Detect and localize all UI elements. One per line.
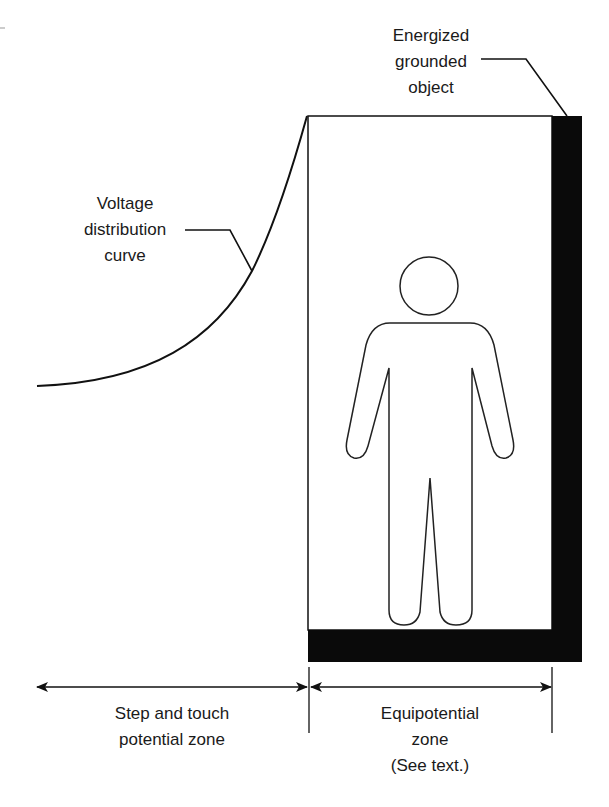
energized-object-label: Energized grounded object <box>393 26 470 97</box>
equipotential-diagram: Energized grounded object Voltage distri… <box>0 0 609 807</box>
label-line: Energized <box>393 26 470 45</box>
label-line: potential zone <box>119 730 225 749</box>
label-line: zone <box>412 730 449 749</box>
equipotential-zone-box <box>308 116 552 630</box>
energized-object-leader-line <box>481 59 567 116</box>
step-touch-zone-label: Step and touch potential zone <box>115 704 229 749</box>
label-line: (See text.) <box>391 756 469 775</box>
label-line: curve <box>104 246 146 265</box>
label-line: Voltage <box>97 194 154 213</box>
label-line: Step and touch <box>115 704 229 723</box>
person-figure <box>346 257 513 625</box>
label-line: distribution <box>84 220 166 239</box>
person-head <box>400 257 458 315</box>
equipotential-zone-label: Equipotential zone (See text.) <box>381 704 479 775</box>
voltage-curve-label: Voltage distribution curve <box>84 194 166 265</box>
label-line: Equipotential <box>381 704 479 723</box>
voltage-distribution-curve <box>37 116 307 386</box>
voltage-curve-leader-line <box>185 230 252 271</box>
person-body <box>346 323 513 625</box>
label-line: grounded <box>395 52 467 71</box>
energized-grounded-object <box>308 116 582 662</box>
label-line: object <box>408 78 454 97</box>
